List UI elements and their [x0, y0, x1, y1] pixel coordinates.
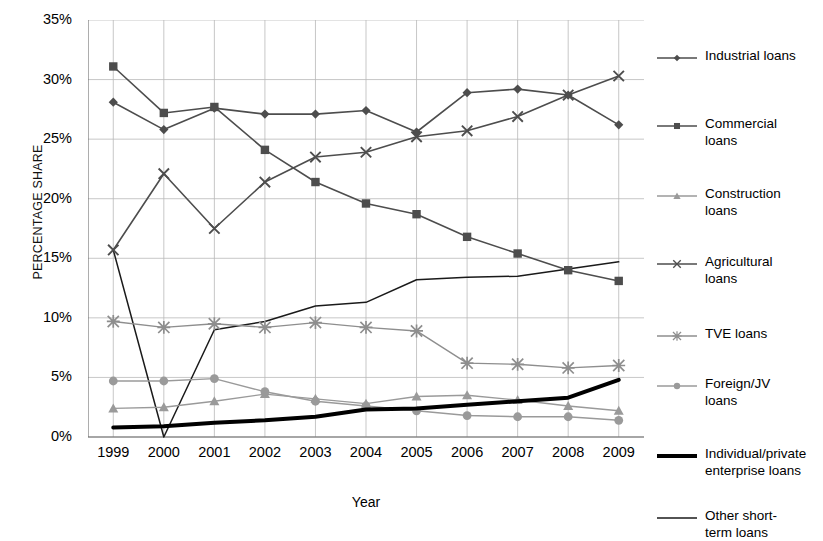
marker-asterisk: [208, 317, 221, 330]
chart-svg: [88, 20, 644, 439]
marker-asterisk: [410, 325, 423, 338]
marker-square: [311, 178, 319, 186]
legend-marker-diamond-icon: [655, 50, 699, 66]
marker-square: [412, 210, 420, 218]
legend-item[interactable]: TVE loans: [655, 326, 767, 344]
marker-diamond: [260, 110, 269, 119]
marker-square: [362, 199, 370, 207]
marker-circle: [261, 387, 270, 396]
legend-marker-square-icon: [655, 118, 699, 134]
marker-asterisk: [612, 359, 625, 372]
marker-square: [564, 266, 572, 274]
legend-label: Individual/private enterprise loans: [699, 446, 806, 479]
marker-asterisk: [672, 331, 681, 340]
marker-square: [109, 62, 117, 70]
legend-item[interactable]: Agricultural loans: [655, 254, 773, 287]
x-tick-label: 2009: [589, 444, 649, 460]
marker-asterisk: [309, 316, 322, 329]
marker-asterisk: [511, 358, 524, 371]
marker-square: [160, 109, 168, 117]
marker-square: [674, 123, 680, 129]
marker-asterisk: [360, 321, 373, 334]
legend-item[interactable]: Individual/private enterprise loans: [655, 446, 806, 479]
marker-diamond: [109, 98, 118, 107]
legend-item[interactable]: Commercial loans: [655, 116, 777, 149]
marker-circle: [210, 374, 219, 383]
marker-diamond: [614, 120, 623, 129]
marker-asterisk: [258, 321, 271, 334]
marker-diamond: [513, 85, 522, 94]
legend-item[interactable]: Foreign/JV loans: [655, 376, 770, 409]
legend-label: Industrial loans: [699, 48, 796, 65]
y-tick-label: 0%: [24, 428, 72, 444]
marker-circle: [311, 397, 320, 406]
marker-circle: [674, 383, 680, 389]
legend-item[interactable]: Industrial loans: [655, 48, 796, 66]
legend-item[interactable]: Other short- term loans: [655, 508, 777, 541]
marker-square: [463, 233, 471, 241]
y-tick-label: 15%: [24, 249, 72, 265]
marker-circle: [564, 412, 573, 421]
y-tick-label: 35%: [24, 11, 72, 27]
marker-diamond: [674, 55, 681, 62]
y-tick-label: 30%: [24, 71, 72, 87]
marker-square: [615, 277, 623, 285]
x-axis-title: Year: [88, 494, 644, 510]
marker-circle: [513, 412, 522, 421]
legend-label: Construction loans: [699, 186, 781, 219]
marker-square: [513, 249, 521, 257]
marker-asterisk: [107, 315, 120, 328]
legend-marker-none-icon: [655, 448, 699, 464]
legend-item[interactable]: Construction loans: [655, 186, 781, 219]
legend-label: Other short- term loans: [699, 508, 777, 541]
legend-marker-asterisk-icon: [655, 328, 699, 344]
marker-diamond: [159, 125, 168, 134]
legend-label: Foreign/JV loans: [699, 376, 770, 409]
marker-diamond: [361, 106, 370, 115]
y-tick-label: 5%: [24, 368, 72, 384]
y-tick-label: 25%: [24, 130, 72, 146]
marker-asterisk: [562, 361, 575, 374]
legend-label: Commercial loans: [699, 116, 777, 149]
marker-circle: [463, 411, 472, 420]
legend-marker-circle-icon: [655, 378, 699, 394]
marker-asterisk: [157, 321, 170, 334]
y-tick-label: 20%: [24, 190, 72, 206]
legend-label: TVE loans: [699, 326, 767, 343]
marker-circle: [614, 416, 623, 425]
legend-label: Agricultural loans: [699, 254, 773, 287]
marker-circle: [109, 377, 118, 386]
marker-diamond: [311, 110, 320, 119]
legend-marker-x-icon: [655, 256, 699, 272]
y-tick-label: 10%: [24, 309, 72, 325]
marker-asterisk: [461, 357, 474, 370]
marker-square: [261, 146, 269, 154]
legend-marker-none-icon: [655, 510, 699, 526]
marker-circle: [159, 377, 168, 386]
plot-area: [88, 20, 644, 437]
legend-marker-triangle-icon: [655, 188, 699, 204]
